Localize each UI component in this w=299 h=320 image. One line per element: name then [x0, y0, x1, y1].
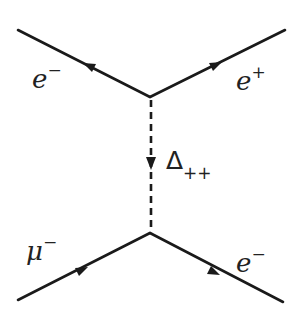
label-e-minus-bottom: e−: [236, 250, 266, 276]
arrow-icon: [75, 267, 88, 276]
arrow-icon: [146, 157, 156, 170]
feynman-diagram: e− e+ Δ++ μ− e−: [0, 0, 299, 320]
label-delta-plusplus: Δ++: [166, 148, 212, 173]
label-mu-minus: μ−: [26, 238, 57, 264]
label-e-plus: e+: [236, 68, 266, 94]
label-e-minus-top: e−: [32, 66, 62, 92]
arrow-icon: [209, 62, 222, 71]
arrow-icon: [83, 63, 96, 72]
